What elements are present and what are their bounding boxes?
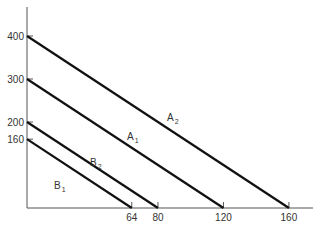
budget-lines [27,36,289,208]
y-tick-label: 160 [7,134,24,145]
y-axis-ticks: 160200300400 [7,31,33,145]
x-tick-label: 80 [152,212,164,223]
x-tick-label: 64 [126,212,138,223]
x-tick-label: 120 [215,212,232,223]
budget-line-chart: 160200300400 6480120160 A2A1B2B1 [0,0,313,225]
series-label-a2: A2 [167,112,179,125]
series-label-a1: A1 [127,131,139,144]
y-tick-label: 400 [7,31,24,42]
y-tick-label: 200 [7,117,24,128]
x-tick-label: 160 [281,212,298,223]
y-tick-label: 300 [7,74,24,85]
budget-line-b1 [27,139,132,208]
budget-line-a2 [27,36,289,208]
series-label-b1: B1 [54,180,66,193]
